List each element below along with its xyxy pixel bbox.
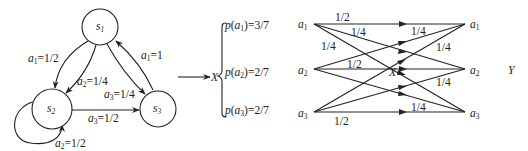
prob-a1-a3: 1/4 — [321, 40, 336, 52]
label-s1-s3-a3: a3=1/4 — [104, 88, 135, 102]
channel-output-label: Y — [508, 64, 516, 76]
state-s3: s3 — [140, 91, 176, 127]
prob-right-mid-lower: 1/4 — [436, 76, 451, 88]
prob-right-top: 1/4 — [411, 25, 426, 37]
channel-output-a2: a2 — [470, 64, 480, 78]
state-diagram: s1 s2 s3 a1=1/2 a2=1/4 a3=1/4 a1=1 a3=1/… — [15, 9, 176, 151]
channel-output-a1: a1 — [470, 18, 480, 32]
diagram-canvas: s1 s2 s3 a1=1/2 a2=1/4 a3=1/4 a1=1 a3=1/… — [0, 0, 528, 151]
label-s1-s2-a2: a2=1/4 — [77, 75, 108, 89]
edge-s1-s3-a3 — [107, 44, 145, 94]
distribution-p-a2: p(a2)=2/7 — [224, 66, 269, 80]
prob-a1-a2: 1/4 — [351, 26, 366, 38]
prob-right-mid-upper: 1/4 — [436, 41, 451, 53]
distribution-p-a3: p(a3)=2/7 — [224, 104, 269, 118]
prob-a1-a1: 1/2 — [335, 11, 350, 23]
channel-output-a3: a3 — [470, 107, 480, 121]
channel-input-a3: a3 — [298, 107, 308, 121]
state-s1: s1 — [82, 9, 118, 45]
label-s3-s1-a1: a1=1 — [141, 49, 163, 63]
prob-a3-a3: 1/2 — [334, 115, 349, 127]
mapping-target-x: X — [210, 71, 219, 83]
state-s2: s2 — [32, 89, 72, 129]
label-s2-s3-a3: a3=1/2 — [88, 112, 119, 126]
channel-input-a1: a1 — [298, 18, 308, 32]
channel-diagram: X Y a1 a2 a3 a1 a2 a3 — [298, 11, 516, 127]
distribution-p-a1: p(a1)=3/7 — [224, 19, 269, 33]
channel-input-a2: a2 — [298, 64, 308, 78]
mapping: X p(a1)=3/7 p(a2)=2/7 p(a3)=2/7 — [178, 19, 269, 118]
label-s1-s2-a1: a1=1/2 — [28, 52, 59, 66]
prob-a2-a2: 1/2 — [347, 58, 362, 70]
prob-right-bottom: 1/4 — [411, 101, 426, 113]
label-s2-self-a2: a2=1/2 — [55, 137, 86, 151]
